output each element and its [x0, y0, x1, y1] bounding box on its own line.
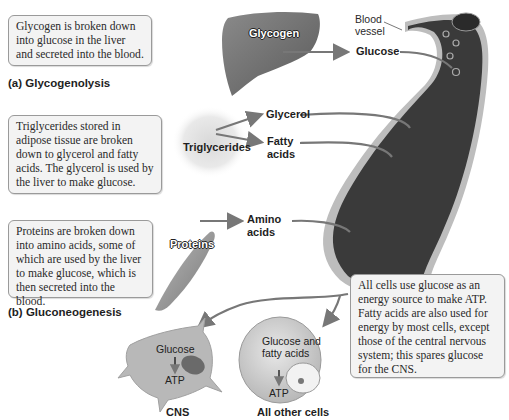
other-cell-label: All other cells [257, 406, 329, 419]
cns-cell-label: CNS [166, 406, 189, 419]
caption-gluconeogenesis: (b) Gluconeogenesis [8, 306, 122, 318]
label-fatty-acids-line2: acids [267, 148, 295, 161]
label-blood-vessel: Blood vessel [355, 13, 385, 37]
triglycerides-info-box: Triglycerides stored in adipose tissue a… [8, 115, 162, 194]
cns-output-label: ATP [165, 374, 185, 386]
glycogenolysis-info-box: Glycogen is broken down into glucose in … [8, 15, 152, 66]
cns-neuron [118, 318, 222, 412]
other-cell-output-label: ATP [269, 387, 289, 399]
liver [222, 12, 320, 96]
label-blood-vessel-line2: vessel [355, 25, 385, 37]
other-cell-input-line1: Glucose and [262, 335, 321, 347]
label-fatty-acids: Fatty acids [267, 135, 295, 161]
label-glycogen: Glycogen [249, 27, 299, 39]
label-amino-acids: Amino acids [247, 213, 281, 239]
cns-input-label: Glucose [156, 343, 195, 355]
caption-glycogenolysis: (a) Glycogenolysis [8, 77, 110, 89]
label-glucose: Glucose [356, 45, 399, 58]
proteins-info-box: Proteins are broken down into amino acid… [8, 220, 153, 298]
blood-vessel [323, 13, 488, 300]
other-cell-input-line2: fatty acids [262, 347, 321, 359]
label-proteins: Proteins [170, 238, 214, 250]
other-cell-input-label: Glucose and fatty acids [262, 335, 321, 359]
label-blood-vessel-line1: Blood [355, 13, 385, 25]
label-triglycerides: Triglycerides [183, 141, 251, 154]
label-amino-acids-line2: acids [247, 226, 281, 239]
label-fatty-acids-line1: Fatty [267, 135, 295, 148]
label-glycerol: Glycerol [266, 108, 310, 121]
label-amino-acids-line1: Amino [247, 213, 281, 226]
all-cells-info-box: All cells use glucose as an energy sourc… [350, 274, 505, 378]
